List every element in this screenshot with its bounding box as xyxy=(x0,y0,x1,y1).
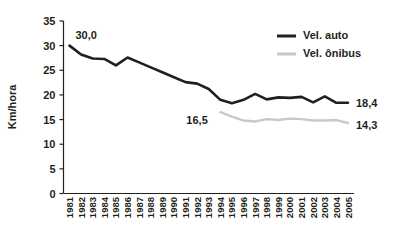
line-chart: 05101520253035 Km/hora 19811982198319841… xyxy=(0,0,393,241)
x-tick-label: 1987 xyxy=(134,197,145,218)
x-tick-label: 2002 xyxy=(308,197,319,218)
x-tick-label: 1999 xyxy=(273,197,284,218)
y-axis-group: 05101520253035 Km/hora xyxy=(6,15,64,200)
x-tick-label: 1992 xyxy=(192,197,203,218)
x-tick-label: 2003 xyxy=(319,197,330,218)
x-tick-label: 1988 xyxy=(145,197,156,218)
x-tick-label: 1981 xyxy=(64,196,75,218)
data-point-label: 14,3 xyxy=(356,119,377,131)
y-tick-label: 20 xyxy=(43,89,55,101)
x-tick-label-group: 1981198219831984198519861987198819891990… xyxy=(64,196,354,218)
y-tick-label: 30 xyxy=(43,40,55,52)
y-tick-label: 15 xyxy=(43,114,55,126)
y-axis-title: Km/hora xyxy=(6,84,18,130)
x-tick-label: 1996 xyxy=(238,197,249,218)
x-tick-label: 1993 xyxy=(203,197,214,218)
x-tick-label: 1986 xyxy=(122,197,133,218)
x-tick-label: 1994 xyxy=(215,196,226,218)
y-tick-group: 05101520253035 xyxy=(43,15,63,200)
data-point-label: 30,0 xyxy=(76,29,97,41)
x-tick-label: 1991 xyxy=(180,196,191,218)
x-tick-label: 2001 xyxy=(296,196,307,218)
x-tick-label: 2000 xyxy=(284,197,295,218)
series-line-vel-nibus xyxy=(220,112,348,123)
legend-label: Vel. ônibus xyxy=(303,47,361,59)
x-tick-label: 1995 xyxy=(226,196,237,218)
y-tick-label: 25 xyxy=(43,64,55,76)
chart-container: 05101520253035 Km/hora 19811982198319841… xyxy=(0,0,393,241)
x-tick-label: 1990 xyxy=(168,197,179,218)
y-tick-label: 10 xyxy=(43,138,55,150)
x-tick-label: 2004 xyxy=(331,196,342,218)
y-tick-label: 5 xyxy=(49,163,55,175)
x-axis-group: 1981198219831984198519861987198819891990… xyxy=(64,194,355,219)
x-tick-label: 2005 xyxy=(343,196,354,218)
x-tick-label: 1983 xyxy=(87,197,98,218)
x-tick-label: 1998 xyxy=(261,197,272,218)
data-point-label: 18,4 xyxy=(356,97,378,109)
y-tick-label: 35 xyxy=(43,15,55,27)
x-tick-label: 1985 xyxy=(110,196,121,218)
x-tick-label: 1982 xyxy=(76,197,87,218)
x-tick-label: 1984 xyxy=(99,196,110,218)
x-tick-label: 1989 xyxy=(157,197,168,218)
data-point-label: 16,5 xyxy=(186,114,207,126)
y-tick-label: 0 xyxy=(49,188,55,200)
legend-group: Vel. autoVel. ônibus xyxy=(277,29,361,59)
legend-label: Vel. auto xyxy=(303,29,349,41)
x-tick-label: 1997 xyxy=(250,197,261,218)
